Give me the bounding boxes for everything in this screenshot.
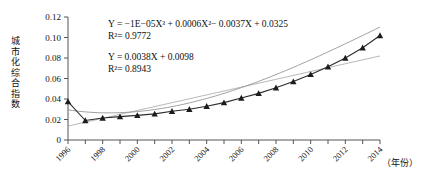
plot-area: 1996199820002002200420062008201020122014…	[0, 0, 430, 184]
y-axis-label-char: 市	[8, 47, 23, 58]
y-axis-label-char: 化	[8, 57, 23, 68]
y-axis-label-char: 数	[8, 99, 23, 110]
svg-text:0.06: 0.06	[45, 74, 61, 84]
data-point-markers	[65, 32, 383, 123]
regression-annotations: Y = −1E−05X³ + 0.0006X²− 0.0037X + 0.032…	[108, 19, 288, 74]
y-axis-label-char: 合	[8, 78, 23, 89]
svg-text:2012: 2012	[331, 144, 350, 163]
urbanization-index-chart: 城 市 化 综 合 指 数 （年份） 199619982000200220042…	[0, 0, 430, 184]
svg-text:0: 0	[57, 135, 62, 145]
svg-text:0.02: 0.02	[45, 115, 61, 125]
y-axis-label-char: 综	[8, 68, 23, 79]
svg-text:R²= 0.9772: R²= 0.9772	[108, 31, 151, 41]
svg-text:1996: 1996	[53, 144, 72, 163]
svg-text:Y = −1E−05X³ + 0.0006X²− 0.003: Y = −1E−05X³ + 0.0006X²− 0.0037X + 0.032…	[108, 19, 288, 29]
svg-text:0.08: 0.08	[45, 53, 61, 63]
y-axis-ticks	[64, 17, 68, 140]
svg-text:1998: 1998	[88, 144, 107, 163]
svg-text:2008: 2008	[261, 144, 280, 163]
svg-text:R²= 0.8943: R²= 0.8943	[108, 64, 151, 74]
svg-text:0.04: 0.04	[45, 94, 61, 104]
svg-text:2000: 2000	[123, 144, 142, 163]
svg-text:Y = 0.0038X + 0.0098: Y = 0.0038X + 0.0098	[108, 52, 194, 62]
svg-text:0.12: 0.12	[45, 12, 61, 22]
svg-text:0.10: 0.10	[45, 33, 61, 43]
y-axis-tick-labels: 00.020.040.060.080.100.12	[45, 12, 61, 145]
svg-text:2010: 2010	[296, 144, 315, 163]
x-axis-unit-label: （年份）	[382, 156, 418, 169]
svg-text:2002: 2002	[157, 144, 176, 163]
y-axis-label: 城 市 化 综 合 指 数	[8, 36, 23, 110]
svg-text:2006: 2006	[227, 144, 246, 163]
svg-text:2004: 2004	[192, 144, 212, 164]
y-axis-label-char: 城	[8, 36, 23, 47]
data-series-line	[68, 35, 380, 120]
x-axis-ticks	[68, 140, 380, 144]
x-axis-tick-labels: 1996199820002002200420062008201020122014	[53, 144, 385, 164]
y-axis-label-char: 指	[8, 89, 23, 100]
